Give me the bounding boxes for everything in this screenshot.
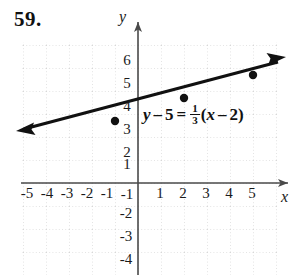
x-tick-label: 2	[177, 185, 189, 202]
y-tick-label: -2	[116, 205, 136, 222]
y-tick-label: 4	[120, 98, 134, 115]
x-tick-label: -4	[39, 185, 55, 202]
y-tick-label: 5	[120, 75, 134, 92]
equation-lhs-variable: y	[143, 105, 151, 125]
y-axis-label: y	[119, 8, 126, 26]
equation-close-paren: )	[238, 105, 244, 125]
x-tick-label: 3	[200, 185, 212, 202]
equation-constant-two: 2	[229, 105, 238, 125]
y-tick-label: -3	[116, 228, 136, 245]
x-tick-label: -1	[99, 185, 115, 202]
y-tick-label: 1	[120, 156, 134, 173]
data-point	[249, 71, 257, 79]
y-tick-label: -4	[116, 251, 136, 268]
equation-minus-sign: –	[154, 105, 163, 125]
equation-minus-sign-2: –	[218, 105, 227, 125]
data-point	[111, 117, 119, 125]
x-tick-label: -3	[59, 185, 75, 202]
x-tick-label: 5	[246, 185, 258, 202]
fraction-denominator: 3	[190, 114, 200, 126]
equation-constant-five: 5	[165, 105, 174, 125]
x-tick-label: 4	[223, 185, 235, 202]
equation-fraction-one-third: 1 3	[190, 103, 200, 126]
y-tick-label: 6	[120, 52, 134, 69]
graph-figure: 59. y x -5 -4 -3 -2 -1 1 2 3 4 5 6 5 4 3…	[0, 0, 300, 280]
x-tick-label: -2	[79, 185, 95, 202]
coordinate-plane	[0, 0, 300, 280]
equation-rhs-variable: x	[206, 105, 215, 125]
y-tick-label: -1	[118, 186, 136, 203]
fraction-numerator: 1	[190, 103, 200, 114]
grid-background	[21, 42, 279, 275]
x-tick-label: -5	[19, 185, 35, 202]
y-tick-label: 3	[120, 121, 134, 138]
equation-equals-sign: =	[177, 105, 187, 125]
equation-annotation: y – 5 = 1 3 ( x – 2 )	[143, 103, 244, 126]
data-point	[180, 94, 188, 102]
x-axis-label: x	[281, 188, 288, 206]
x-tick-label: 1	[154, 185, 166, 202]
